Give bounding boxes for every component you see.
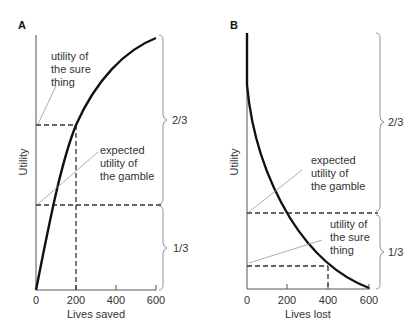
panel-a-label: A (18, 19, 26, 31)
brace-lower (376, 215, 384, 289)
x-tick-label: 600 (147, 294, 165, 306)
brace-upper-label: 2/3 (388, 116, 403, 128)
brace-upper (376, 33, 384, 211)
x-tick-label: 0 (33, 294, 39, 306)
x-tick-label: 200 (278, 294, 296, 306)
sure-thing-annotation: utility of the sure thing (51, 50, 94, 88)
leader-line (38, 152, 98, 204)
panel-a: A 0 200 400 600 Lives saved Utility util… (17, 19, 188, 320)
brace-upper (159, 35, 167, 204)
x-axis-label: Lives saved (67, 308, 125, 320)
leader-line (38, 86, 56, 124)
brace-lower-label: 1/3 (173, 242, 188, 254)
sure-thing-annotation: utility of the sure thing (330, 218, 373, 256)
panel-b-label: B (230, 19, 238, 31)
brace-lower (159, 206, 167, 290)
leader-line (249, 240, 322, 263)
x-tick-label: 400 (319, 294, 337, 306)
x-tick-label: 200 (67, 294, 85, 306)
y-axis-label: Utility (228, 148, 240, 175)
gamble-annotation: expected utility of the gamble (311, 154, 365, 192)
brace-upper-label: 2/3 (172, 114, 187, 126)
x-axis-label: Lives lost (285, 308, 331, 320)
x-tick-label: 0 (244, 294, 250, 306)
gamble-annotation: expected utility of the gamble (100, 144, 154, 182)
leader-line (249, 170, 302, 212)
x-tick-label: 400 (107, 294, 125, 306)
x-tick-label: 600 (360, 294, 378, 306)
figure: A 0 200 400 600 Lives saved Utility util… (0, 0, 416, 334)
y-axis-label: Utility (17, 148, 29, 175)
panel-b: B 0 200 400 600 Lives lost Utility expec… (228, 19, 403, 320)
brace-lower-label: 1/3 (388, 246, 403, 258)
